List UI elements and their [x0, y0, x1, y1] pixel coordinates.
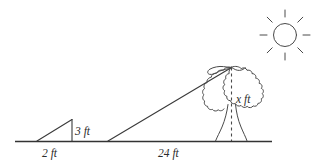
sun-ray-se	[298, 48, 303, 53]
small-triangle	[37, 120, 72, 142]
label-tree-height: x ft	[235, 93, 251, 106]
sun-icon	[260, 10, 310, 60]
sun-ray-nw	[267, 17, 272, 22]
sun-ray-line	[108, 68, 232, 142]
label-tree-shadow: 24 ft	[158, 147, 180, 160]
shadow-problem-diagram: 3 ft 2 ft 24 ft x ft	[0, 0, 322, 167]
tree-canopy-left	[203, 67, 232, 111]
sun-ray-ne	[298, 17, 303, 22]
label-stick-shadow: 2 ft	[42, 147, 58, 160]
figure-container: 3 ft 2 ft 24 ft x ft	[0, 0, 322, 167]
sun-ray-sw	[267, 48, 272, 53]
tree	[203, 66, 264, 141]
label-stick-height: 3 ft	[74, 125, 91, 138]
tree-trunk-right	[236, 105, 248, 141]
small-triangle-hypotenuse	[37, 120, 72, 142]
sun-disc	[274, 24, 297, 47]
